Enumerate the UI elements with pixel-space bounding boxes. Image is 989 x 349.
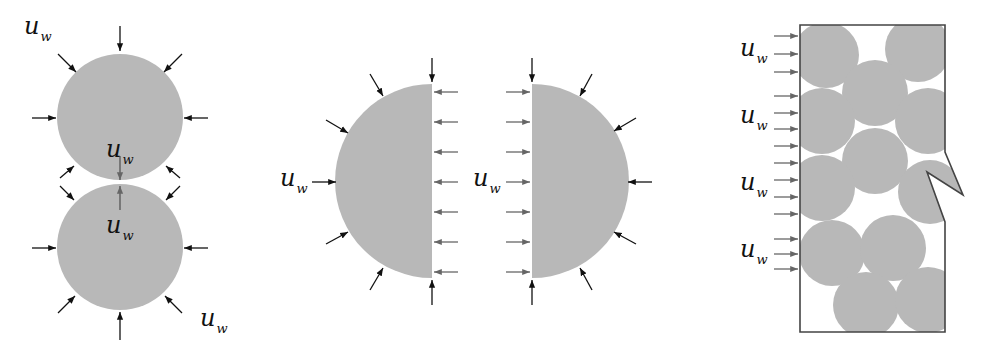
cut-face-arrows-right xyxy=(506,92,530,272)
left-wall-arrows xyxy=(774,36,798,269)
half-particle-left xyxy=(335,84,432,278)
label-uw-p2-right: uw xyxy=(473,166,500,190)
cut-face-arrows-left xyxy=(434,92,458,272)
label-uw-p3-3: uw xyxy=(740,170,767,194)
label-uw-p1-bottomright: uw xyxy=(200,306,227,330)
label-uw-p3-4: uw xyxy=(740,237,767,261)
half-particle-right xyxy=(532,84,629,278)
label-uw-p3-2: uw xyxy=(740,103,767,127)
label-uw-p1-center-bottom: uw xyxy=(106,213,133,237)
label-uw-p1-center-top: uw xyxy=(106,137,133,161)
label-uw-p1-topleft: uw xyxy=(24,14,51,38)
label-uw-p2-left: uw xyxy=(280,166,307,190)
label-uw-p3-1: uw xyxy=(740,36,767,60)
panel-packed-box xyxy=(774,16,963,338)
panel-two-particles xyxy=(32,26,208,340)
